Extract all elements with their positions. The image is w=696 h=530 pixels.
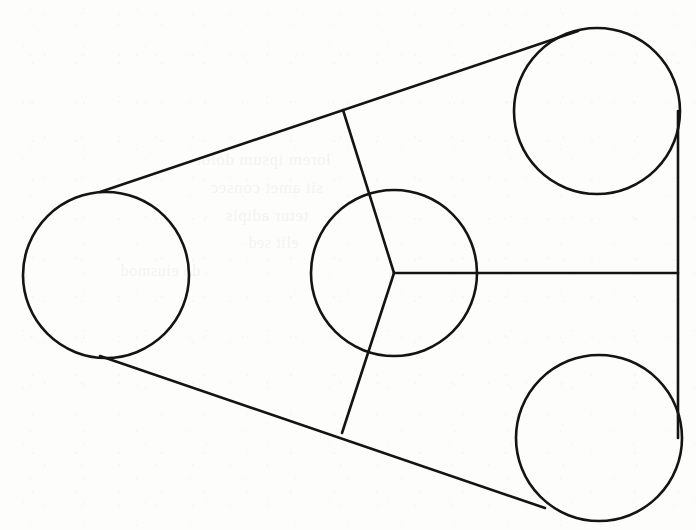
left-pulley-circle — [23, 192, 189, 358]
belt-lines-group — [100, 31, 678, 508]
diagram-canvas: lorem ipsum dolor sit amet consec tetur … — [0, 0, 696, 530]
upper-belt-tangent-line — [100, 31, 578, 192]
top-right-pulley-circle — [514, 28, 680, 194]
bottom-right-pulley-circle — [516, 355, 682, 521]
pulley-diagram-svg — [0, 0, 696, 530]
lower-belt-tangent-line — [100, 356, 545, 508]
pulley-circles-group — [23, 28, 682, 521]
